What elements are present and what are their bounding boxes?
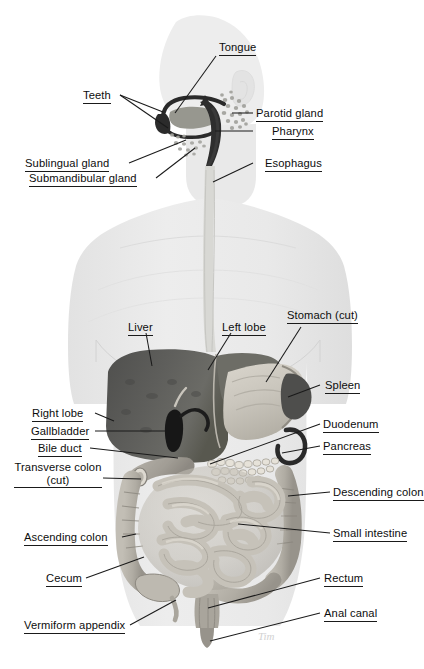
artist-signature: Tim [258,630,304,648]
label-pharynx: Pharynx [272,125,314,140]
label-ascending-colon: Ascending colon [24,531,108,546]
label-gallbladder: Gallbladder [31,425,89,440]
label-vermiform-appendix: Vermiform appendix [24,619,125,634]
label-cecum: Cecum [46,572,82,587]
label-pancreas: Pancreas [323,440,371,455]
label-parotid-gland: Parotid gland [256,107,323,122]
label-sublingual-gland: Sublingual gland [25,157,109,172]
label-tongue: Tongue [219,41,256,56]
label-rectum: Rectum [324,572,363,587]
label-stomach-cut: Stomach (cut) [287,309,358,324]
label-small-intestine: Small intestine [333,527,407,542]
label-descending-colon: Descending colon [333,486,424,501]
label-transverse-colon-cut: Transverse colon (cut) [14,461,102,488]
label-submandibular-gland: Submandibular gland [29,172,137,187]
label-left-lobe: Left lobe [222,321,266,336]
label-right-lobe: Right lobe [32,407,83,422]
label-spleen: Spleen [325,379,360,394]
label-anal-canal: Anal canal [324,607,377,622]
label-esophagus: Esophagus [265,157,322,172]
label-liver: Liver [128,321,153,336]
label-bile-duct: Bile duct [38,442,82,457]
label-duodenum: Duodenum [323,418,379,433]
label-teeth: Teeth [83,89,111,104]
